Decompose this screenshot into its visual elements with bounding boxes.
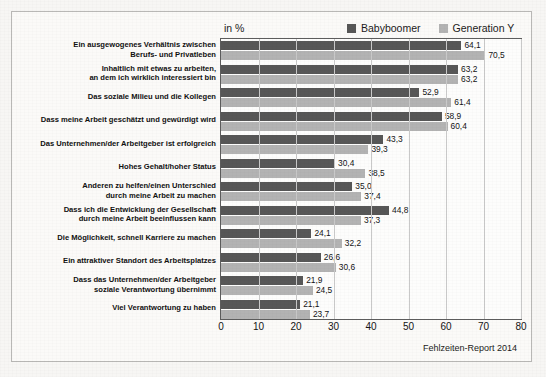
legend-label-babyboomer: Babyboomer	[361, 20, 421, 36]
category-label: Dass meine Arbeit geschätzt und gewürdig…	[26, 115, 216, 125]
bar-value-label: 52,9	[419, 88, 438, 97]
bar-value-label: 35,0	[352, 182, 371, 191]
source-note: Fehlzeiten-Report 2014	[423, 343, 517, 353]
category-labels: Ein ausgewogenes Verhältnis zwischen Ber…	[26, 38, 216, 320]
plot-area: 64,170,563,263,252,961,458,960,443,339,3…	[220, 38, 522, 320]
bar-babyboomer	[221, 276, 303, 285]
bar-generation-y	[221, 216, 361, 225]
bar-babyboomer	[221, 41, 461, 50]
bar-value-label: 30,4	[335, 159, 354, 168]
bar-babyboomer	[221, 159, 335, 168]
bar-value-label: 61,4	[451, 98, 470, 107]
bar-generation-y	[221, 98, 451, 107]
bar-babyboomer	[221, 229, 311, 238]
bar-babyboomer	[221, 206, 389, 215]
bar-value-label: 24,1	[311, 229, 330, 238]
bar-babyboomer	[221, 135, 383, 144]
category-label: Viel Verantwortung zu haben	[26, 303, 216, 313]
category-label: Ein ausgewogenes Verhältnis zwischen Ber…	[26, 40, 216, 59]
gridline-50	[409, 39, 410, 319]
x-tick-label-60: 60	[440, 321, 451, 332]
bar-value-label: 32,2	[342, 239, 361, 248]
bar-value-label: 21,9	[303, 276, 322, 285]
bar-generation-y	[221, 169, 365, 178]
category-label: Inhaltlich mit etwas zu arbeiten, an dem…	[26, 64, 216, 83]
gridline-10	[259, 39, 260, 319]
bar-babyboomer	[221, 300, 300, 309]
category-label: Hohes Gehalt/hoher Status	[26, 162, 216, 172]
gridline-60	[446, 39, 447, 319]
category-label: Dass das Unternehmen/der Arbeitgeber soz…	[26, 275, 216, 294]
bar-value-label: 26,6	[321, 253, 340, 262]
bar-value-label: 38,5	[365, 169, 384, 178]
category-label: Dass ich die Entwicklung der Gesellschaf…	[26, 205, 216, 224]
bar-value-label: 43,3	[383, 135, 402, 144]
bar-generation-y	[221, 286, 313, 295]
x-tick-label-70: 70	[478, 321, 489, 332]
gridline-30	[334, 39, 335, 319]
bar-generation-y	[221, 263, 336, 272]
bar-value-label: 24,5	[313, 286, 332, 295]
bar-value-label: 30,6	[336, 263, 355, 272]
x-tick-label-20: 20	[290, 321, 301, 332]
category-label: Das soziale Milieu und die Kollegen	[26, 92, 216, 102]
category-label: Die Möglichkeit, schnell Karriere zu mac…	[26, 233, 216, 243]
gridline-20	[296, 39, 297, 319]
x-tick-label-80: 80	[515, 321, 526, 332]
category-label: Anderen zu helfen/einen Unterschied durc…	[26, 181, 216, 200]
legend-item-babyboomer: Babyboomer	[347, 20, 421, 36]
chart-page: in % Babyboomer Generation Y Ein ausgewo…	[0, 0, 546, 377]
bar-generation-y	[221, 75, 458, 84]
bar-babyboomer	[221, 253, 321, 262]
bar-value-label: 58,9	[442, 112, 461, 121]
x-tick-label-10: 10	[253, 321, 264, 332]
bar-value-label: 44,8	[389, 206, 408, 215]
unit-label: in %	[224, 20, 244, 36]
x-tick-label-40: 40	[365, 321, 376, 332]
bar-value-label: 63,2	[458, 65, 477, 74]
x-tick-label-0: 0	[218, 321, 224, 332]
bar-generation-y	[221, 192, 361, 201]
legend-swatch-babyboomer	[347, 24, 356, 33]
bar-generation-y	[221, 239, 342, 248]
category-label: Das Unternehmen/der Arbeitgeber ist erfo…	[26, 139, 216, 149]
bar-value-label: 21,1	[300, 300, 319, 309]
bar-value-label: 23,7	[310, 310, 329, 319]
x-tick-label-30: 30	[328, 321, 339, 332]
bar-value-label: 70,5	[485, 51, 504, 60]
chart-legend: Babyboomer Generation Y	[347, 20, 514, 36]
x-tick-label-50: 50	[403, 321, 414, 332]
gridline-40	[371, 39, 372, 319]
legend-label-generation-y: Generation Y	[453, 20, 515, 36]
legend-swatch-generation-y	[439, 24, 448, 33]
bar-value-label: 63,2	[458, 75, 477, 84]
category-label: Ein attraktiver Standort des Arbeitsplat…	[26, 256, 216, 266]
bar-value-label: 60,4	[448, 122, 467, 131]
chart-frame: in % Babyboomer Generation Y Ein ausgewo…	[11, 11, 532, 362]
bar-generation-y	[221, 145, 368, 154]
gridline-70	[484, 39, 485, 319]
bar-value-label: 64,1	[461, 41, 480, 50]
x-axis: 01020304050607080	[220, 321, 522, 337]
bar-babyboomer	[221, 88, 419, 97]
legend-item-generation-y: Generation Y	[439, 20, 515, 36]
gridline-80	[521, 39, 522, 319]
bar-babyboomer	[221, 65, 458, 74]
